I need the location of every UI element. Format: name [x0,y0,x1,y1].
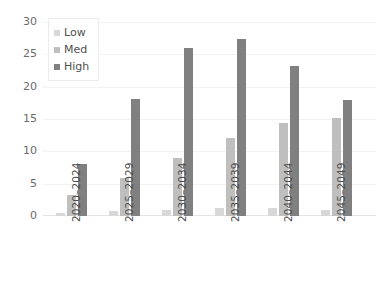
bar-low [56,213,65,216]
y-tick-label: 5 [7,178,37,189]
x-tick-label: 2025–2029 [124,162,135,222]
legend-item-med: Med [54,41,89,58]
y-tick-label: 20 [7,81,37,92]
x-tick-label: 2040–2044 [283,162,294,222]
y-tick-label: 30 [7,16,37,27]
bar-low [215,208,224,216]
x-tick-label: 2030–2034 [177,162,188,222]
y-tick-label: 25 [7,48,37,59]
legend-item-low: Low [54,24,89,41]
legend-item-label: Low [64,27,86,38]
bar-chart: 30 25 20 15 10 5 0 2020–20242025–2029203… [0,0,386,303]
legend-swatch-icon [54,47,60,53]
y-tick-label: 10 [7,145,37,156]
bar-low [321,210,330,216]
chart-legend: Low Med High [48,18,99,81]
x-tick-label: 2035–2039 [230,162,241,222]
legend-item-label: Med [64,44,87,55]
x-tick-label: 2045–2049 [336,162,347,222]
x-tick-label: 2020–2024 [71,162,82,222]
legend-swatch-icon [54,64,60,70]
legend-item-high: High [54,58,89,75]
bar-low [162,210,171,216]
y-tick-label: 15 [7,113,37,124]
bar-low [268,208,277,216]
legend-item-label: High [64,61,89,72]
legend-swatch-icon [54,30,60,36]
y-tick-label: 0 [7,210,37,221]
bar-low [109,211,118,216]
